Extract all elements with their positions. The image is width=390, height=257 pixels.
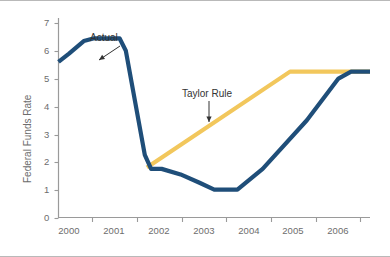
- chart-canvas: [0, 0, 390, 257]
- x-tick-label: 2002: [134, 225, 184, 236]
- annotation-arrows: [99, 46, 212, 122]
- y-tick-label: 6: [0, 45, 50, 56]
- x-tick-label: 2004: [224, 225, 274, 236]
- x-tick-label: 2001: [89, 225, 139, 236]
- y-tick-label: 4: [0, 101, 50, 112]
- y-tick-label: 0: [0, 212, 50, 223]
- y-tick-label: 5: [0, 73, 50, 84]
- series-annotation-label: Actual: [90, 32, 118, 43]
- y-tick-label: 2: [0, 156, 50, 167]
- x-axis-ticks: [93, 218, 361, 223]
- actual-rate-line: [59, 38, 371, 189]
- chart-figure: Federal Funds Rate 765432102000200120022…: [0, 0, 390, 257]
- y-tick-label: 1: [0, 184, 50, 195]
- x-tick-label: 2006: [313, 225, 363, 236]
- y-tick-label: 7: [0, 17, 50, 28]
- taylor-rule-line: [147, 72, 370, 168]
- x-tick-label: 2000: [44, 225, 94, 236]
- y-tick-label: 3: [0, 129, 50, 140]
- x-tick-label: 2005: [268, 225, 318, 236]
- x-tick-label: 2003: [179, 225, 229, 236]
- series-annotation-label: Taylor Rule: [182, 88, 232, 99]
